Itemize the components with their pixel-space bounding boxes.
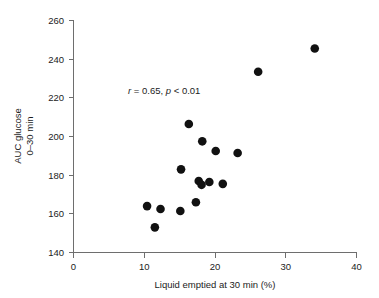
annotation-r-value: = 0.65, [131, 85, 166, 96]
x-tick-label: 30 [281, 261, 292, 272]
x-tick-label: 10 [139, 261, 150, 272]
scatter-plot-figure: 140 160 180 200 220 240 260 0 10 20 30 4… [0, 0, 379, 298]
y-tick-label: 240 [48, 54, 64, 65]
data-point [310, 44, 319, 53]
x-axis-tick-labels: 0 10 20 30 40 [71, 261, 362, 272]
data-point [156, 205, 165, 214]
y-tick-label: 140 [48, 247, 64, 258]
data-point [211, 147, 220, 156]
y-axis-ticks [69, 21, 74, 253]
data-point [197, 181, 206, 190]
data-point [176, 207, 185, 216]
data-point [192, 198, 201, 207]
x-tick-label: 40 [351, 261, 362, 272]
y-axis-title-line2: 0–30 min [24, 116, 35, 155]
annotation-p-value: < 0.01 [171, 85, 200, 96]
x-tick-label: 0 [71, 261, 76, 272]
plot-canvas: 140 160 180 200 220 240 260 0 10 20 30 4… [0, 0, 379, 298]
data-point [185, 120, 194, 129]
y-axis-title-line1: AUC glucose [12, 108, 23, 163]
data-point [254, 67, 263, 76]
y-tick-label: 200 [48, 131, 64, 142]
y-tick-label: 260 [48, 15, 64, 26]
y-tick-label: 180 [48, 170, 64, 181]
axes-group [74, 21, 357, 253]
correlation-annotation: r = 0.65, p < 0.01 [128, 85, 200, 96]
data-point [218, 180, 227, 189]
data-point [177, 165, 186, 174]
y-axis-tick-labels: 140 160 180 200 220 240 260 [48, 15, 64, 258]
x-axis-title: Liquid emptied at 30 min (%) [155, 279, 276, 290]
data-point [233, 149, 242, 158]
y-tick-label: 160 [48, 208, 64, 219]
x-axis-ticks [74, 253, 357, 258]
y-tick-label: 220 [48, 92, 64, 103]
data-points-layer [143, 44, 319, 231]
x-tick-label: 20 [210, 261, 221, 272]
data-point [205, 178, 214, 187]
data-point [198, 137, 207, 146]
y-axis-title: AUC glucose 0–30 min [12, 108, 35, 163]
data-point [143, 202, 152, 211]
data-point [151, 223, 160, 232]
